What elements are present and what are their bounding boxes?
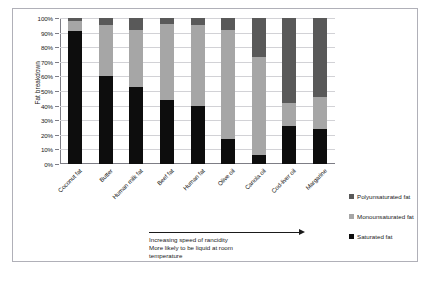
y-axis-tick-label: 90%	[41, 29, 53, 36]
x-axis-label: Human milk fat	[111, 167, 144, 200]
annotation-line: Increasing speed of rancidity	[149, 236, 329, 244]
legend-label: Polyunsaturated fat	[357, 193, 410, 200]
y-axis-tick	[55, 33, 59, 34]
bar-segment-sat[interactable]	[282, 126, 296, 164]
bar-segment-sat[interactable]	[252, 155, 266, 164]
bar-segment-poly[interactable]	[68, 18, 82, 21]
y-axis-tick-label: 20%	[41, 131, 53, 138]
y-axis-tick	[55, 47, 59, 48]
bar-segment-mono[interactable]	[313, 97, 327, 129]
legend-swatch-icon	[349, 234, 354, 239]
bar-segment-sat[interactable]	[313, 129, 327, 164]
bar-column[interactable]	[221, 18, 235, 164]
bar-segment-poly[interactable]	[313, 18, 327, 97]
y-axis-tick-label: 0%	[44, 161, 53, 168]
bar-column[interactable]	[68, 18, 82, 164]
arrow-head-icon	[299, 229, 305, 235]
y-axis-tick-label: 80%	[41, 44, 53, 51]
annotation-line: More likely to be liquid at room	[149, 244, 329, 252]
bar-column[interactable]	[129, 18, 143, 164]
x-axis-label: Butter	[98, 167, 114, 183]
bar-segment-poly[interactable]	[99, 18, 113, 25]
legend-label: Monounsaturated fat	[357, 213, 414, 220]
plot-area: 100%90%80%70%60%50%40%30%20%10%0%	[60, 18, 335, 164]
chart-frame: Fat breakdown 100%90%80%70%60%50%40%30%2…	[12, 8, 418, 262]
legend-item[interactable]: Monounsaturated fat	[349, 213, 414, 220]
direction-arrow	[149, 228, 309, 236]
bar-segment-poly[interactable]	[252, 18, 266, 57]
chart-legend: Polyunsaturated fatMonounsaturated fatSa…	[349, 193, 414, 253]
bar-segment-poly[interactable]	[221, 18, 235, 30]
y-axis-tick-label: 50%	[41, 88, 53, 95]
y-axis-title: Fat breakdown	[34, 61, 41, 105]
y-axis-tick	[55, 135, 59, 136]
y-axis-tick-label: 70%	[41, 58, 53, 65]
legend-label: Saturated fat	[357, 233, 392, 240]
y-axis-tick	[55, 164, 59, 165]
y-axis-tick-label: 60%	[41, 73, 53, 80]
bar-segment-sat[interactable]	[191, 106, 205, 164]
x-axis-label: Margarine	[304, 167, 328, 191]
x-axis-label: Canola oil	[243, 167, 267, 191]
legend-swatch-icon	[349, 214, 354, 219]
bar-segment-poly[interactable]	[129, 18, 143, 30]
bar-segment-mono[interactable]	[68, 21, 82, 31]
bar-segment-mono[interactable]	[129, 30, 143, 87]
annotation-text: Increasing speed of rancidityMore likely…	[149, 236, 329, 261]
bar-column[interactable]	[160, 18, 174, 164]
bar-segment-poly[interactable]	[160, 18, 174, 24]
bar-segment-mono[interactable]	[252, 57, 266, 155]
bar-segment-mono[interactable]	[191, 25, 205, 105]
y-axis-tick	[55, 76, 59, 77]
bar-segment-sat[interactable]	[68, 31, 82, 164]
rancidity-annotation: Increasing speed of rancidityMore likely…	[149, 228, 329, 261]
x-axis-label: Coconut fat	[57, 167, 84, 194]
legend-swatch-icon	[349, 194, 354, 199]
legend-item[interactable]: Polyunsaturated fat	[349, 193, 414, 200]
bar-segment-mono[interactable]	[282, 103, 296, 126]
annotation-line: temperature	[149, 252, 329, 260]
bar-column[interactable]	[313, 18, 327, 164]
bar-segment-poly[interactable]	[282, 18, 296, 103]
x-axis-label: Cod-liver oil	[270, 167, 297, 194]
bar-segment-sat[interactable]	[160, 100, 174, 164]
bar-segment-mono[interactable]	[160, 24, 174, 100]
y-axis-tick	[55, 149, 59, 150]
y-axis-tick	[55, 18, 59, 19]
bar-column[interactable]	[191, 18, 205, 164]
y-axis-tick-label: 10%	[41, 146, 53, 153]
bar-segment-sat[interactable]	[99, 76, 113, 164]
x-axis-label: Beef fat	[155, 167, 175, 187]
bar-segment-poly[interactable]	[191, 18, 205, 25]
y-axis-tick-label: 30%	[41, 117, 53, 124]
bar-segment-mono[interactable]	[99, 25, 113, 76]
bar-column[interactable]	[282, 18, 296, 164]
arrow-line-icon	[149, 232, 301, 233]
bar-segment-sat[interactable]	[221, 139, 235, 164]
y-axis-tick	[55, 91, 59, 92]
x-axis-label: Olive oil	[216, 167, 236, 187]
bar-column[interactable]	[252, 18, 266, 164]
bar-column[interactable]	[99, 18, 113, 164]
legend-item[interactable]: Saturated fat	[349, 233, 414, 240]
y-axis-tick-label: 100%	[38, 15, 53, 22]
bar-segment-sat[interactable]	[129, 87, 143, 164]
y-axis-tick	[55, 106, 59, 107]
bar-segment-mono[interactable]	[221, 30, 235, 140]
y-axis-tick	[55, 62, 59, 63]
x-axis-label: Human fat	[181, 167, 206, 192]
y-axis-tick-label: 40%	[41, 102, 53, 109]
y-axis-tick	[55, 120, 59, 121]
